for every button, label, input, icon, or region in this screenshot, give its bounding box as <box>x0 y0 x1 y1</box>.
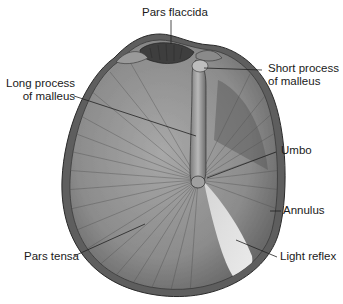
label-pars-flaccida: Pars flaccida <box>142 6 208 19</box>
label-short-process-line1: Short process <box>268 62 339 75</box>
umbo <box>191 176 205 188</box>
label-long-process-line2: of malleus <box>6 90 75 103</box>
label-long-process: Long process of malleus <box>6 77 75 103</box>
short-process <box>192 60 208 72</box>
label-light-reflex: Light reflex <box>280 250 336 263</box>
label-annulus: Annulus <box>283 204 325 217</box>
malleus-handle <box>190 60 206 186</box>
label-short-process-line2: of malleus <box>268 75 339 88</box>
label-short-process: Short process of malleus <box>268 62 339 88</box>
label-long-process-line1: Long process <box>6 77 75 90</box>
label-pars-tensa: Pars tensa <box>24 250 79 263</box>
label-umbo: Umbo <box>281 144 312 157</box>
